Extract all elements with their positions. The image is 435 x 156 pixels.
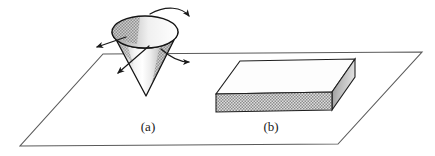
figure-illustration: (a) (b) <box>0 0 435 156</box>
slab-front-face <box>216 92 332 112</box>
label-a: (a) <box>141 119 155 134</box>
slab-box <box>216 59 355 112</box>
label-b: (b) <box>263 119 278 134</box>
figure-container: (a) (b) <box>0 0 435 156</box>
arrow-top-right-curved-icon <box>150 8 189 16</box>
